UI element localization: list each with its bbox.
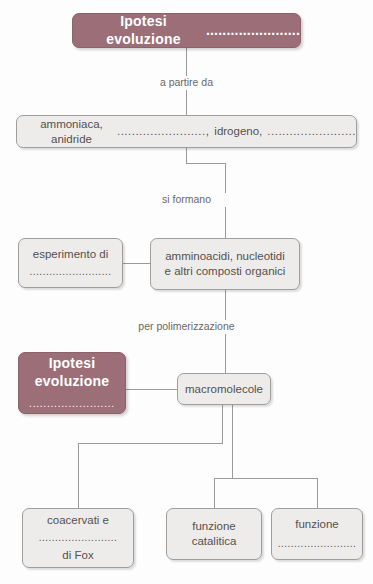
node-primordial-gases-text-before: ammoniaca, anidride xyxy=(31,117,112,146)
node-monomers: amminoacidi, nucleotidi e altri composti… xyxy=(150,238,300,290)
node-hypothesis-second-line-2: evoluzione xyxy=(35,373,109,391)
connector-gases-down xyxy=(186,148,187,163)
connector-monomers-down xyxy=(225,290,226,320)
node-monomers-line-1: amminoacidi, nucleotidi xyxy=(165,249,285,264)
connector-label-a-partire-da: a partire da xyxy=(0,76,373,88)
node-function-blank-blank: ........................ xyxy=(278,538,357,551)
connector-down-to-catalytic xyxy=(214,478,215,508)
connector-caption-to-gases xyxy=(186,90,187,115)
node-hypothesis-title-label: Ipotesi evoluzione xyxy=(87,13,200,49)
concept-map-diagram: a partire da si formano per polimerizzaz… xyxy=(0,0,373,584)
node-hypothesis-title-blank: ....................... xyxy=(206,22,300,40)
connector-label-per-polimerizzazione: per polimerizzazione xyxy=(0,320,373,332)
connector-hypothesis2-to-macromolecules xyxy=(126,389,177,390)
node-hypothesis-second-line-1: Ipotesi xyxy=(49,355,96,373)
node-coacervates-blank: ........................ xyxy=(39,532,118,545)
connector-jog-to-caption xyxy=(225,163,226,193)
node-primordial-gases-blank-1: ........................, xyxy=(117,124,209,139)
connector-down-to-coacervates xyxy=(78,443,79,508)
node-coacervates: coacervati e ........................ di… xyxy=(22,508,134,568)
node-catalytic-function-line-1: funzione xyxy=(192,519,235,534)
node-macromolecules: macromolecole xyxy=(177,373,271,405)
node-primordial-gases: ammoniaca, anidride ....................… xyxy=(16,115,357,148)
node-macromolecules-label: macromolecole xyxy=(185,382,263,397)
node-experiment-blank: ......................... xyxy=(30,266,112,279)
node-catalytic-function: funzione catalitica xyxy=(166,508,262,560)
node-primordial-gases-blank-2: ........................ xyxy=(267,124,356,139)
node-hypothesis-title: Ipotesi evoluzione .....................… xyxy=(72,13,301,48)
node-function-blank-line-1: funzione xyxy=(295,517,338,532)
connector-label-si-formano: si formano xyxy=(0,193,373,205)
node-experiment-label: esperimento di xyxy=(33,247,108,262)
connector-branch-to-coacervates xyxy=(78,443,223,444)
node-coacervates-line-1: coacervati e xyxy=(47,513,109,528)
connector-caption-to-monomers xyxy=(225,207,226,238)
connector-caption-to-macromolecules xyxy=(225,334,226,373)
connector-macromolecules-right-stem xyxy=(232,405,233,478)
connector-down-to-function xyxy=(317,478,318,508)
node-coacervates-line-2: di Fox xyxy=(62,548,93,563)
node-function-blank: funzione ........................ xyxy=(271,508,363,560)
connector-branch-to-functions xyxy=(214,478,317,479)
connector-experiment-to-monomers xyxy=(123,263,150,264)
connector-gases-jog xyxy=(186,163,225,164)
node-experiment: esperimento di ......................... xyxy=(18,238,123,288)
node-hypothesis-second-blank: ........................ xyxy=(29,398,115,411)
connector-macromolecules-left-stem xyxy=(222,405,223,443)
node-hypothesis-second: Ipotesi evoluzione .....................… xyxy=(18,352,126,414)
node-catalytic-function-line-2: catalitica xyxy=(192,534,237,549)
node-primordial-gases-text-middle: idrogeno, xyxy=(214,124,262,139)
node-monomers-line-2: e altri composti organici xyxy=(165,264,286,279)
connector-title-to-gases xyxy=(186,48,187,76)
